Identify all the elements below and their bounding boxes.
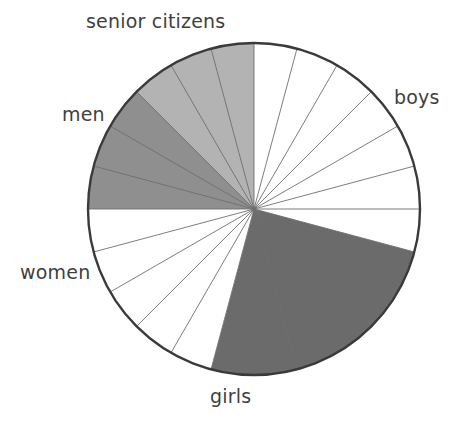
pie-label-men: men bbox=[62, 103, 105, 125]
pie-chart-canvas bbox=[0, 0, 463, 427]
pie-label-girls: girls bbox=[210, 385, 251, 407]
pie-label-women: women bbox=[20, 261, 90, 283]
pie-slice-dividers bbox=[88, 43, 420, 375]
pie-label-boys: boys bbox=[394, 86, 440, 108]
pie-label-senior-citizens: senior citizens bbox=[86, 10, 225, 32]
pie-chart: senior citizens boys men women girls bbox=[0, 0, 463, 427]
